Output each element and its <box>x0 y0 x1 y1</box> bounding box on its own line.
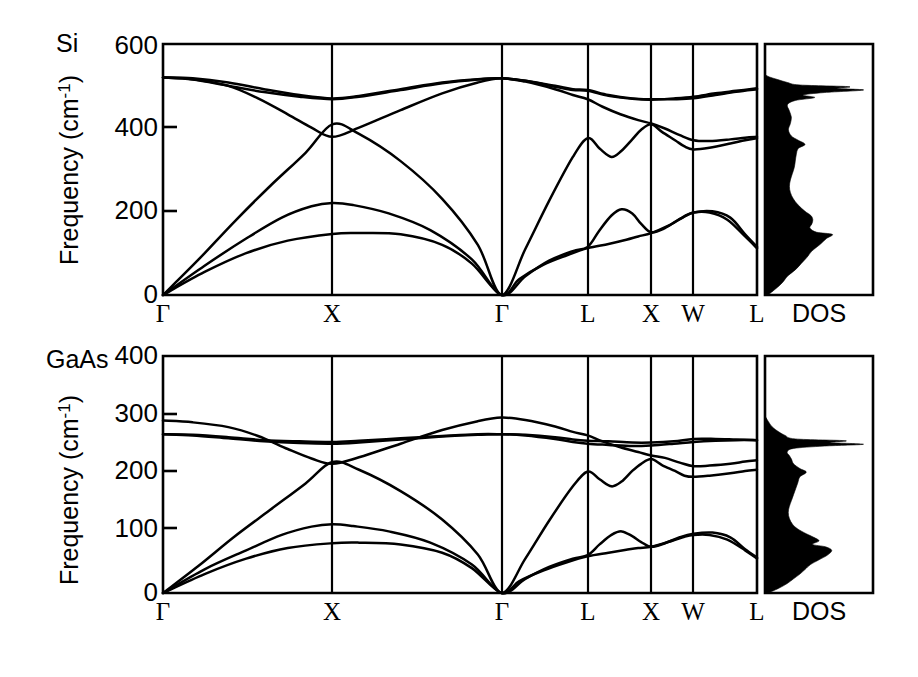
si-xtick-3: L <box>580 300 595 327</box>
si-xtick-6: L <box>749 300 764 327</box>
gaas-xtick-2: Γ <box>495 598 509 625</box>
band-curve-la <box>163 124 757 295</box>
si-ytick-400: 400 <box>115 112 158 142</box>
svg-text:Frequency (cm-1): Frequency (cm-1) <box>55 75 83 265</box>
si-panel: Si Frequency (cm-1) 600 400 200 0 Γ X Γ … <box>55 29 873 327</box>
svg-text:Frequency (cm-1): Frequency (cm-1) <box>55 395 83 585</box>
si-xtick-5: W <box>681 300 705 327</box>
gaas-xtick-3: L <box>580 598 595 625</box>
gaas-panel: GaAs Frequency (cm-1) 400 300 200 100 0 … <box>46 340 873 625</box>
gaas-axis-title-sup: -1 <box>55 403 74 418</box>
si-xtick-2: Γ <box>495 300 509 327</box>
si-ytick-600: 600 <box>115 30 158 60</box>
band-curve-ta2 <box>163 203 757 295</box>
gaas-band-curves <box>163 418 757 594</box>
si-ytick-200: 200 <box>115 195 158 225</box>
si-material-label: Si <box>56 29 78 57</box>
si-xtick-0: Γ <box>156 300 170 327</box>
gaas-ytick-200: 200 <box>115 455 158 485</box>
gaas-xtick-4: X <box>642 598 660 625</box>
band-curve-la <box>163 459 757 593</box>
gaas-axis-title-close: ) <box>55 395 83 403</box>
si-dos-curve <box>766 75 864 295</box>
gaas-dos-curve <box>766 418 864 593</box>
gaas-dos-caption: DOS <box>792 597 846 625</box>
si-axis-title-text: Frequency (cm <box>55 98 83 265</box>
gaas-ytick-100: 100 <box>115 513 158 543</box>
gaas-xtick-1: X <box>323 598 341 625</box>
gaas-material-label: GaAs <box>46 345 109 373</box>
si-dos-caption: DOS <box>792 299 846 327</box>
si-band-curves <box>163 77 757 295</box>
si-y-axis-title: Frequency (cm-1) <box>55 75 83 265</box>
gaas-xtick-0: Γ <box>156 598 170 625</box>
gaas-ytick-300: 300 <box>115 398 158 428</box>
si-axis-title-close: ) <box>55 75 83 83</box>
band-curve-ta1 <box>163 212 757 296</box>
si-xtick-4: X <box>642 300 660 327</box>
gaas-xtick-6: L <box>749 598 764 625</box>
dos-filled-curve <box>766 418 864 593</box>
si-xtick-1: X <box>323 300 341 327</box>
dos-filled-curve <box>766 75 864 295</box>
phonon-band-structure-figure: Si Frequency (cm-1) 600 400 200 0 Γ X Γ … <box>0 0 918 677</box>
band-curve-to2 <box>163 434 757 446</box>
si-axis-title-sup: -1 <box>55 83 74 98</box>
gaas-ytick-400: 400 <box>115 340 158 370</box>
gaas-xtick-5: W <box>681 598 705 625</box>
gaas-y-axis-title: Frequency (cm-1) <box>55 395 83 585</box>
gaas-axis-title-text: Frequency (cm <box>55 418 83 585</box>
